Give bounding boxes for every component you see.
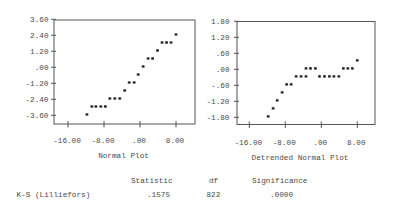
asterisk-point-icon [314,67,317,70]
x-tick-label: -8.00 [273,139,296,147]
asterisk-point-icon [323,75,326,78]
asterisk-point-icon [318,75,321,78]
statistic-value: .1575 [147,191,170,200]
asterisk-point-icon [305,75,308,78]
asterisk-point-icon [290,83,293,86]
asterisk-point-icon [300,75,303,78]
asterisk-point-icon [328,75,331,78]
asterisk-point-icon [346,67,349,70]
x-tick-label: 8.00 [347,139,366,147]
asterisk-point-icon [351,67,354,70]
asterisk-point-icon [272,107,275,110]
detrended-normal-plot: 1.801.20.60.00-.60-1.20-1.80-16.00-8.00.… [0,0,395,215]
y-tick-label: .00 [216,66,230,74]
asterisk-point-icon [276,99,279,102]
y-tick-label: -.60 [211,82,230,90]
asterisk-point-icon [267,115,270,118]
plot-frame [237,22,375,125]
x-tick-label: .00 [313,139,327,147]
asterisk-point-icon [281,91,284,94]
y-tick-label: 1.20 [211,34,230,42]
significance-value: .0000 [270,191,293,200]
y-tick-label: -1.80 [206,114,229,122]
plot-title: Detrended Normal Plot [252,154,349,162]
asterisk-point-icon [333,75,336,78]
header-statistic: Statistic [131,177,173,186]
x-tick-label: -16.00 [234,139,262,147]
header-df: df [209,177,218,186]
y-tick-label: .60 [216,50,230,58]
asterisk-point-icon [342,67,345,70]
asterisk-point-icon [285,83,288,86]
asterisk-point-icon [337,75,340,78]
row-label: K-S (Lilliefors) [17,191,91,200]
asterisk-point-icon [295,75,298,78]
asterisk-point-icon [356,59,359,62]
header-significance: Significance [252,177,307,186]
y-tick-label: -1.20 [206,98,229,106]
asterisk-point-icon [309,67,312,70]
df-value: 822 [207,191,221,200]
y-tick-label: 1.80 [211,18,230,26]
asterisk-point-icon [305,67,308,70]
